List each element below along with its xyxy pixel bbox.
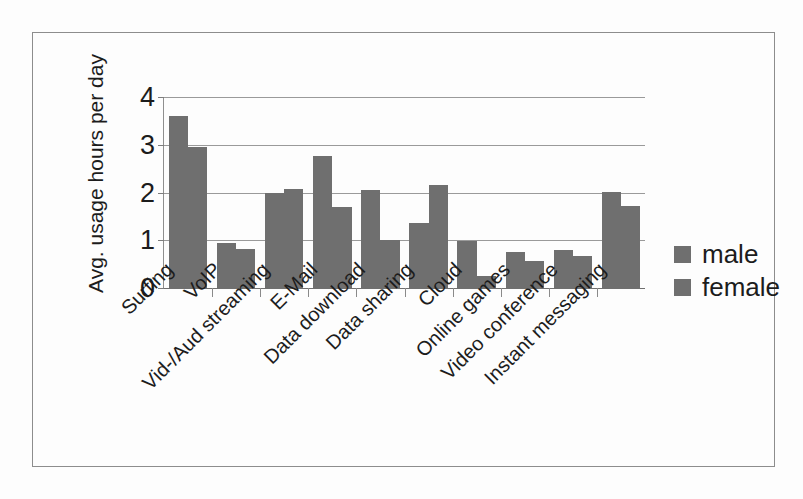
x-tick-mark [212,288,213,297]
x-tick-mark [308,288,309,297]
bar-group [217,97,255,288]
x-tick-mark [453,288,454,297]
y-axis-title: Avg. usage hours per day [81,93,111,293]
bar-group [313,97,351,288]
y-tick-mark [158,240,164,241]
x-tick-mark [501,288,502,297]
x-tick-mark [356,288,357,297]
bar-group [554,97,592,288]
y-tick-label: 3 [140,131,155,158]
legend-swatch-icon [674,246,691,263]
x-tick-mark [549,288,550,297]
legend-item-male[interactable]: male [674,241,758,267]
chart-screenshot: Avg. usage hours per day 01234 SurfingVo… [0,0,803,499]
chart-frame: Avg. usage hours per day 01234 SurfingVo… [32,32,775,467]
x-tick-mark [405,288,406,297]
legend-label: male [702,241,758,267]
x-tick-mark [260,288,261,297]
bar-male [169,116,188,288]
y-tick-mark [158,97,164,98]
bar-group [602,97,640,288]
bar-group [506,97,544,288]
legend-swatch-icon [674,279,691,296]
x-tick-mark [597,288,598,297]
bar-group [409,97,447,288]
y-tick-label: 4 [140,84,155,111]
bar-group [169,97,207,288]
y-tick-label: 2 [140,179,155,206]
y-tick-label: 1 [140,227,155,254]
y-tick-mark [158,193,164,194]
legend-label: female [702,274,780,300]
bar-female [621,206,640,288]
bar-group [457,97,495,288]
y-tick-mark [158,145,164,146]
legend-item-female[interactable]: female [674,274,780,300]
bar-group [265,97,303,288]
bar-group [361,97,399,288]
plot-area: 01234 [164,97,645,288]
